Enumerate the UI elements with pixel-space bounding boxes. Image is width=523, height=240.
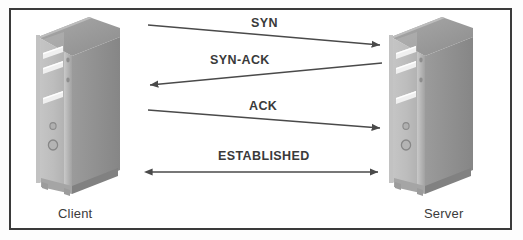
message-label-syn-ack: SYN-ACK: [210, 53, 270, 67]
node-label-client: Client: [58, 206, 92, 221]
message-label-syn: SYN: [251, 16, 278, 30]
figure-container: SYN SYN-ACK ACK ESTABLISHED Client Serve…: [0, 0, 523, 240]
message-label-established: ESTABLISHED: [218, 149, 310, 163]
message-label-ack: ACK: [249, 99, 277, 113]
client-tower-icon: [36, 17, 120, 196]
node-label-server: Server: [424, 206, 464, 221]
server-tower-icon: [389, 17, 473, 196]
handshake-diagram: [0, 0, 523, 240]
